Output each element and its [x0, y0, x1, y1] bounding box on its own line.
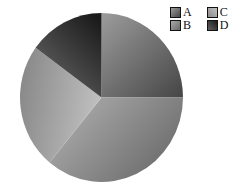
legend-label: B — [183, 19, 191, 31]
legend-item-c: C — [207, 6, 229, 18]
legend-item-a: A — [170, 6, 192, 18]
legend-label: D — [220, 19, 229, 31]
legend-label: A — [183, 6, 192, 18]
legend-swatch-a — [170, 7, 181, 18]
legend-swatch-b — [170, 20, 181, 31]
legend-swatch-d — [207, 20, 218, 31]
pie-chart-figure: ABCD — [0, 0, 244, 191]
legend-item-d: D — [207, 19, 229, 31]
legend-item-b: B — [170, 19, 192, 31]
legend-label: C — [220, 6, 228, 18]
legend: ABCD — [170, 6, 228, 31]
legend-swatch-c — [207, 7, 218, 18]
